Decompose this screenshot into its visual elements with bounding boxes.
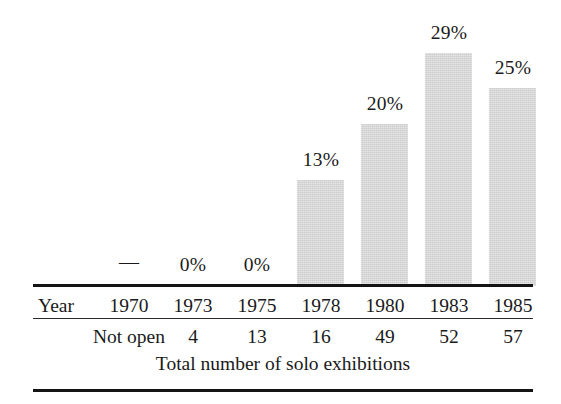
bar-value-label: —: [97, 252, 161, 272]
table-row-totals: Not open 4 13 16 49 52 57: [0, 322, 561, 352]
year-cell-1980: 1980: [353, 291, 417, 321]
bar-chart-figure: — 0% 0% 13% 20% 29% 25% Year 1970: [0, 0, 561, 404]
chart-column-1980: 20%: [353, 0, 417, 286]
chart-column-1978: 13%: [289, 0, 353, 286]
chart-column-1985: 25%: [481, 0, 545, 286]
chart-column-1983: 29%: [417, 0, 481, 286]
table-mid-rule: [33, 318, 533, 319]
bar-value-label: 29%: [417, 23, 481, 43]
bar-value-label: 0%: [161, 255, 225, 275]
total-cell-1973: 4: [161, 322, 225, 352]
total-cell-1985: 57: [481, 322, 545, 352]
bar-1980: [361, 124, 408, 286]
year-cell-1973: 1973: [161, 291, 225, 321]
plot-area: — 0% 0% 13% 20% 29% 25%: [0, 0, 561, 286]
table-caption: Total number of solo exhibitions: [33, 354, 533, 374]
table-row-year: Year 1970 1973 1975 1978 1980 1983 1985: [0, 291, 561, 321]
total-cell-1980: 49: [353, 322, 417, 352]
year-cell-1985: 1985: [481, 291, 545, 321]
chart-column-1970: —: [97, 0, 161, 286]
bar-value-label: 25%: [481, 58, 545, 78]
data-table: Year 1970 1973 1975 1978 1980 1983 1985 …: [0, 286, 561, 404]
year-cell-1975: 1975: [225, 291, 289, 321]
bar-1978: [297, 180, 344, 286]
bar-value-label: 20%: [353, 94, 417, 114]
chart-column-1975: 0%: [225, 0, 289, 286]
bar-value-label: 13%: [289, 150, 353, 170]
table-bottom-rule: [33, 389, 533, 392]
year-cell-1978: 1978: [289, 291, 353, 321]
total-cell-1978: 16: [289, 322, 353, 352]
chart-column-1973: 0%: [161, 0, 225, 286]
year-cell-1983: 1983: [417, 291, 481, 321]
total-cell-1975: 13: [225, 322, 289, 352]
bar-value-label: 0%: [225, 255, 289, 275]
total-cell-1983: 52: [417, 322, 481, 352]
bar-1983: [425, 53, 472, 286]
row-header-year: Year: [38, 291, 74, 321]
year-cell-1970: 1970: [97, 291, 161, 321]
bar-1985: [489, 88, 536, 286]
